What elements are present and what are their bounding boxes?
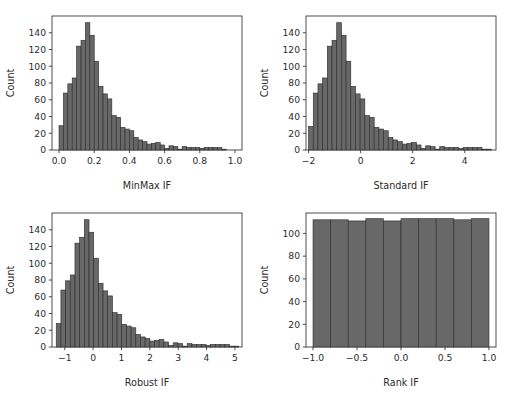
y-axis-label: Count	[259, 69, 270, 98]
x-tick-label: 4	[204, 351, 210, 362]
histogram-bar	[145, 338, 150, 346]
histogram-bar	[401, 218, 419, 346]
y-axis-label: Count	[259, 265, 270, 294]
histogram-bar	[348, 220, 366, 346]
y-tick-label: 0	[40, 341, 46, 352]
histogram-bar	[318, 84, 323, 150]
histogram-bar	[126, 326, 131, 347]
histogram-bar	[337, 23, 342, 150]
histogram-bar	[220, 344, 225, 347]
x-tick-label: 3	[175, 351, 181, 362]
histogram-bar	[477, 147, 482, 150]
histogram-bar	[201, 344, 206, 347]
y-tick-label: 20	[34, 324, 46, 335]
x-tick-label: −1	[58, 351, 72, 362]
histogram-bar	[234, 346, 239, 347]
histogram-bar	[213, 147, 217, 150]
histogram-bar	[98, 283, 103, 347]
histogram-bar	[173, 147, 177, 150]
y-tick-label: 80	[34, 274, 46, 285]
x-axis-label: Rank IF	[383, 377, 418, 388]
y-tick-label: 40	[288, 295, 300, 306]
histogram-bar	[360, 99, 365, 150]
y-tick-label: 100	[282, 61, 300, 72]
histogram-bars	[59, 23, 226, 150]
histogram-bar	[77, 46, 81, 150]
histogram-bar	[393, 140, 398, 150]
histogram-bar	[138, 140, 142, 150]
histogram-bar	[94, 61, 98, 150]
histogram-bar	[192, 344, 197, 347]
histogram-bar	[225, 344, 230, 347]
histogram-bar	[430, 147, 435, 150]
histogram-bar	[370, 117, 375, 150]
x-tick-label: 2	[147, 351, 153, 362]
histogram-bar	[209, 147, 213, 150]
histogram-bar	[75, 243, 80, 347]
histogram-bar	[183, 346, 188, 347]
y-tick-label: 0	[40, 144, 46, 155]
x-tick-label: −2	[302, 155, 316, 166]
plot-area: −2024020406080100120140Standard IFCount	[254, 0, 508, 196]
histogram-bar	[131, 327, 136, 346]
histogram-bar	[140, 336, 145, 346]
histogram-bar	[222, 149, 226, 150]
histogram-bar	[66, 280, 71, 346]
histogram-bar	[187, 147, 191, 150]
histogram-bar	[103, 94, 107, 150]
y-tick-label: 60	[288, 273, 300, 284]
histogram-bars	[309, 23, 492, 150]
histogram-bar	[191, 147, 195, 150]
histogram-bar	[435, 149, 440, 150]
histogram-bar	[169, 146, 173, 150]
histogram-bar	[454, 147, 459, 150]
histogram-bar	[61, 290, 66, 347]
y-tick-label: 40	[34, 307, 46, 318]
x-tick-label: 1	[119, 351, 125, 362]
y-tick-label: 20	[34, 128, 46, 139]
histogram-bar	[388, 137, 393, 150]
histogram-bar	[136, 334, 141, 347]
x-tick-label: 0.2	[87, 155, 102, 166]
panel-standard-if: −2024020406080100120140Standard IFCount	[254, 0, 508, 196]
histogram-bar	[94, 258, 99, 347]
histogram-bar	[80, 237, 85, 347]
x-tick-label: 0.5	[438, 351, 453, 362]
x-tick-label: 4	[462, 155, 468, 166]
histogram-bar	[134, 137, 138, 150]
y-tick-label: 0	[294, 144, 300, 155]
histogram-bar	[112, 312, 117, 346]
y-tick-label: 80	[288, 250, 300, 261]
histogram-bar	[426, 146, 431, 150]
histogram-bar	[211, 344, 216, 347]
histogram-bar	[217, 147, 221, 150]
y-tick-label: 80	[34, 77, 46, 88]
y-tick-label: 20	[288, 128, 300, 139]
histogram-bar	[197, 344, 202, 347]
x-tick-label: 5	[232, 351, 238, 362]
histogram-bar	[56, 323, 61, 346]
histogram-bar	[116, 117, 120, 150]
histogram-bar	[159, 339, 164, 347]
y-tick-label: 60	[34, 94, 46, 105]
histogram-bar	[365, 116, 370, 150]
histogram-bar	[122, 324, 127, 347]
histogram-bar	[59, 126, 63, 150]
histogram-bar	[313, 93, 318, 150]
x-axis-label: Robust IF	[125, 377, 169, 388]
histogram-bar	[398, 142, 403, 150]
histogram-bar	[229, 346, 234, 347]
histogram-bar	[151, 143, 155, 150]
x-tick-label: 0.6	[157, 155, 172, 166]
histogram-bar	[129, 131, 133, 150]
histogram-bar	[379, 129, 384, 150]
y-axis-label: Count	[5, 265, 16, 294]
histogram-bar	[206, 345, 211, 347]
histogram-bar	[187, 343, 192, 346]
x-tick-label: 0	[358, 155, 364, 166]
histogram-bar	[155, 340, 160, 347]
x-tick-label: 2	[410, 155, 416, 166]
histogram-bar	[366, 218, 384, 346]
y-tick-label: 100	[282, 227, 300, 238]
plot-area: −1012345020406080100120140Robust IFCount	[0, 197, 254, 393]
